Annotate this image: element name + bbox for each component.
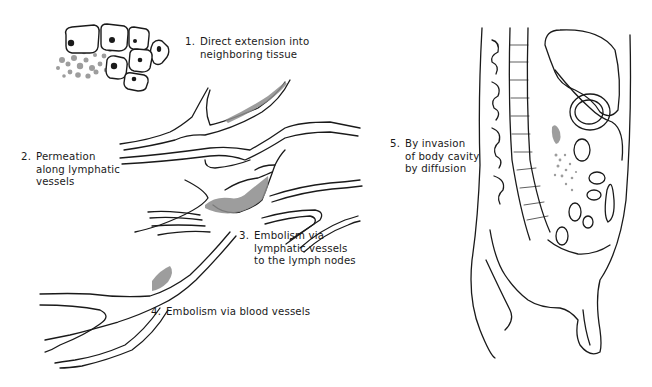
label-text: Direct extension into neighboring tissue — [185, 36, 309, 61]
label-blood-embolism: 4. Embolism via blood vessels — [151, 306, 310, 319]
tumor-cells-illustration — [56, 24, 169, 91]
illustration-canvas — [0, 0, 652, 387]
label-body-cavity: 5. By invasion of body cavity by diffusi… — [390, 138, 479, 176]
label-text: Permeation along lymphatic vessels — [21, 151, 120, 189]
label-text: By invasion of body cavity by diffusion — [390, 138, 479, 176]
label-number: 1. — [185, 36, 195, 49]
label-permeation: 2. Permeation along lymphatic vessels — [21, 151, 120, 189]
label-direct-extension: 1. Direct extension into neighboring tis… — [185, 36, 309, 61]
label-number: 5. — [390, 138, 400, 151]
label-text: Embolism via blood vessels — [151, 306, 310, 319]
label-number: 3. — [239, 230, 249, 243]
lymphatic-network-illustration — [120, 80, 362, 252]
label-number: 4. — [151, 306, 161, 319]
label-lymphatic-embolism: 3. Embolism via lymphatic vessels to the… — [239, 230, 356, 268]
label-text: Embolism via lymphatic vessels to the ly… — [239, 230, 356, 268]
label-number: 2. — [21, 151, 31, 164]
sagittal-body-illustration — [471, 28, 631, 358]
blood-vessel-illustration — [40, 232, 236, 368]
